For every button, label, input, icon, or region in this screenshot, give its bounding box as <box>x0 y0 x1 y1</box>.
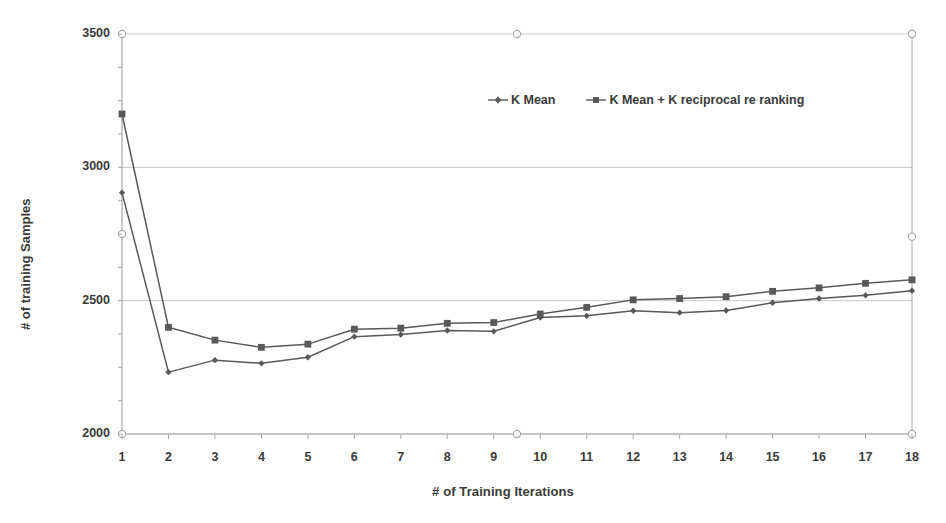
chart-axes <box>118 30 915 437</box>
x-tick-label: 14 <box>711 450 741 464</box>
data-point-marker <box>723 293 730 300</box>
y-tick-label: 3500 <box>58 26 110 40</box>
x-axis-title: # of Training Iterations <box>0 484 946 499</box>
data-point-marker <box>351 326 358 333</box>
data-point-marker <box>490 319 497 326</box>
legend-item-k-mean[interactable]: K Mean <box>487 93 555 107</box>
data-point-marker <box>165 369 171 375</box>
data-point-marker <box>444 327 450 333</box>
data-point-marker <box>630 308 636 314</box>
data-point-marker <box>212 357 218 363</box>
legend-item-k-mean-reciprocal[interactable]: K Mean + K reciprocal re ranking <box>585 93 804 107</box>
data-point-marker <box>909 276 916 283</box>
x-tick-label: 15 <box>758 450 788 464</box>
data-point-marker <box>630 296 637 303</box>
data-point-marker <box>305 354 311 360</box>
y-tick-label: 2000 <box>58 426 110 440</box>
legend-label-k-mean-reciprocal: K Mean + K reciprocal re ranking <box>609 93 804 107</box>
data-point-marker <box>816 284 823 291</box>
series-line-2 <box>122 114 912 347</box>
data-series <box>119 111 916 376</box>
data-point-marker <box>769 288 776 295</box>
x-tick-label: 16 <box>804 450 834 464</box>
x-tick-label: 2 <box>153 450 183 464</box>
x-tick-label: 12 <box>618 450 648 464</box>
x-tick-label: 10 <box>525 450 555 464</box>
data-point-marker <box>397 325 404 332</box>
x-tick-label: 11 <box>572 450 602 464</box>
legend-label-k-mean: K Mean <box>511 93 555 107</box>
data-point-marker <box>119 189 125 195</box>
data-point-marker <box>676 309 682 315</box>
axis-endpoint-marker <box>513 30 520 37</box>
data-point-marker <box>444 320 451 327</box>
x-tick-label: 5 <box>293 450 323 464</box>
x-tick-label: 13 <box>665 450 695 464</box>
x-tick-label: 6 <box>339 450 369 464</box>
line-chart-canvas <box>0 0 946 523</box>
y-tick-label: 3000 <box>58 159 110 173</box>
x-tick-label: 8 <box>432 450 462 464</box>
x-tick-label: 17 <box>851 450 881 464</box>
data-point-marker <box>909 288 915 294</box>
data-point-marker <box>723 307 729 313</box>
data-point-marker <box>676 295 683 302</box>
x-tick-label: 1 <box>107 450 137 464</box>
axis-endpoint-marker <box>513 430 520 437</box>
data-point-marker <box>862 292 868 298</box>
data-point-marker <box>212 337 219 344</box>
data-point-marker <box>583 304 590 311</box>
axis-endpoint-marker <box>908 233 915 240</box>
data-point-marker <box>165 324 172 331</box>
x-tick-label: 7 <box>386 450 416 464</box>
data-point-marker <box>491 328 497 334</box>
y-tick-label: 2500 <box>58 293 110 307</box>
y-axis-title: # of training Samples <box>18 199 33 330</box>
data-point-marker <box>398 331 404 337</box>
axis-endpoint-marker <box>908 30 915 37</box>
x-tick-label: 4 <box>246 450 276 464</box>
data-point-marker <box>258 344 265 351</box>
data-point-marker <box>258 360 264 366</box>
series-line-1 <box>122 193 912 372</box>
legend-marker-diamond-icon <box>487 94 509 106</box>
data-point-marker <box>537 311 544 318</box>
x-tick-label: 3 <box>200 450 230 464</box>
x-tick-label: 9 <box>479 450 509 464</box>
data-point-marker <box>584 313 590 319</box>
data-point-marker <box>351 333 357 339</box>
x-tick-label: 18 <box>897 450 927 464</box>
chart-container: # of training Samples # of Training Iter… <box>0 0 946 523</box>
data-point-marker <box>304 341 311 348</box>
data-point-marker <box>119 111 126 118</box>
legend-marker-square-icon <box>585 94 607 106</box>
data-point-marker <box>862 280 869 287</box>
chart-legend: K Mean K Mean + K reciprocal re ranking <box>487 93 804 107</box>
